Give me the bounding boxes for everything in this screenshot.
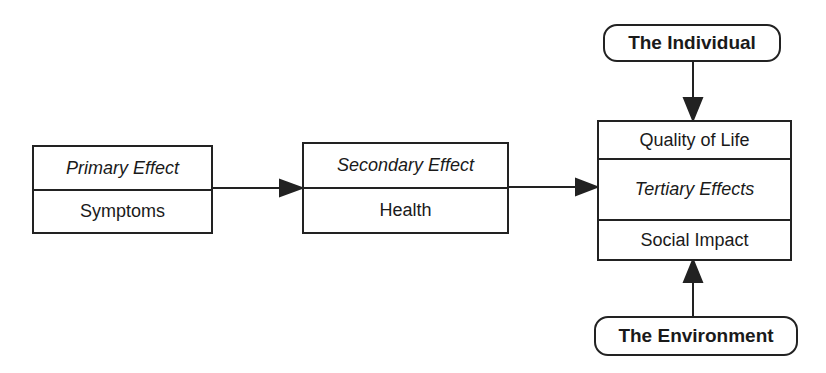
tertiary-effects-box: Quality of Life Tertiary Effects Social …: [597, 120, 792, 261]
tertiary-effects-title: Tertiary Effects: [599, 160, 790, 221]
secondary-effect-box: Secondary Effect Health: [302, 142, 509, 234]
primary-effect-box: Primary Effect Symptoms: [32, 145, 213, 234]
secondary-effect-title: Secondary Effect: [304, 144, 507, 189]
secondary-effect-label: Health: [304, 189, 507, 232]
quality-of-life-label: Quality of Life: [599, 122, 790, 160]
environment-node: The Environment: [594, 316, 798, 356]
primary-effect-label: Symptoms: [34, 191, 211, 232]
individual-node: The Individual: [603, 24, 781, 62]
social-impact-label: Social Impact: [599, 221, 790, 259]
primary-effect-title: Primary Effect: [34, 147, 211, 191]
